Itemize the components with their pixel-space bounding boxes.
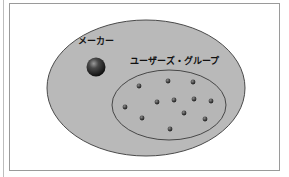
venn-diagram: メーカー ユーザーズ・グループ <box>0 0 289 177</box>
maker-ball-icon <box>87 58 106 77</box>
member-dot-icon <box>172 98 177 103</box>
member-dot-icon <box>168 127 173 132</box>
member-dot-icon <box>123 105 128 110</box>
member-dot-icon <box>166 79 171 84</box>
member-dot-icon <box>203 117 208 122</box>
member-dot-icon <box>140 116 145 121</box>
member-dot-icon <box>182 111 187 116</box>
member-dot-icon <box>155 100 160 105</box>
member-dot-icon <box>191 80 196 85</box>
member-dot-icon <box>192 97 197 102</box>
member-dot-icon <box>209 99 214 104</box>
member-dot-icon <box>137 84 142 89</box>
maker-label: メーカー <box>78 36 114 46</box>
user-group-label: ユーザーズ・グループ <box>130 55 220 66</box>
